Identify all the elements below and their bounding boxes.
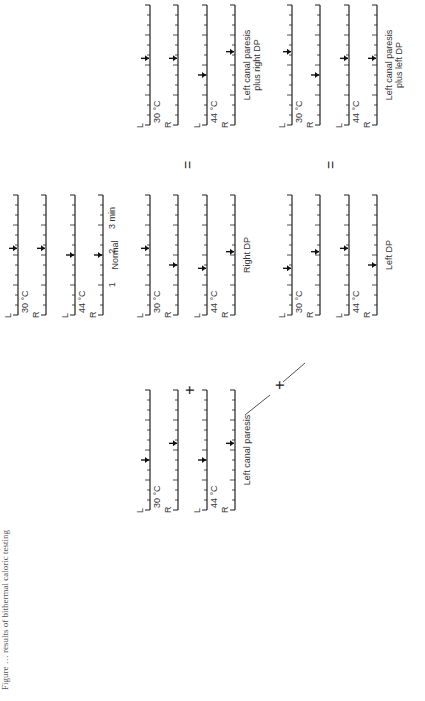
panel-label: Right DP — [242, 237, 252, 273]
caloric-test-diagram: LRLR30 °C44 °CNormal123 minLRLR30 °C44 °… — [0, 0, 425, 701]
time-tick-label: 2 — [107, 249, 117, 254]
svg-text:30 °C: 30 °C — [20, 290, 30, 313]
equals-operator: = — [323, 161, 339, 169]
panel-label: Normal — [110, 240, 120, 269]
row-label: R — [220, 311, 230, 318]
svg-text:plus left DP: plus left DP — [394, 42, 404, 88]
panel-label: Left canal paresis — [242, 29, 252, 100]
svg-text:44 °C: 44 °C — [209, 100, 219, 123]
row-label: L — [277, 123, 287, 128]
row-label: L — [135, 313, 145, 318]
row-label: R — [220, 121, 230, 128]
row-label: R — [163, 506, 173, 513]
row-label: L — [277, 313, 287, 318]
row-label: R — [362, 311, 372, 318]
panel-label: Left canal paresis — [242, 414, 252, 485]
equals-operator: = — [180, 161, 196, 169]
svg-text:44 °C: 44 °C — [209, 290, 219, 313]
svg-text:44 °C: 44 °C — [351, 290, 361, 313]
row-label: L — [334, 123, 344, 128]
svg-text:44 °C: 44 °C — [209, 485, 219, 508]
svg-text:plus right DP: plus right DP — [252, 39, 262, 91]
time-tick-label: 1 — [107, 282, 117, 287]
row-label: L — [3, 313, 13, 318]
row-label: R — [305, 311, 315, 318]
row-label: L — [334, 313, 344, 318]
row-label: R — [163, 121, 173, 128]
svg-text:30 °C: 30 °C — [294, 100, 304, 123]
row-label: R — [220, 506, 230, 513]
svg-text:30 °C: 30 °C — [152, 100, 162, 123]
row-label: L — [192, 123, 202, 128]
plus-operator: + — [271, 380, 288, 389]
svg-text:30 °C: 30 °C — [152, 290, 162, 313]
panel-label: Left canal paresis — [384, 29, 394, 100]
panel-label: Left DP — [384, 240, 394, 270]
row-label: R — [163, 311, 173, 318]
svg-text:30 °C: 30 °C — [294, 290, 304, 313]
row-label: R — [31, 311, 41, 318]
row-label: R — [362, 121, 372, 128]
row-label: R — [88, 311, 98, 318]
row-label: R — [305, 121, 315, 128]
row-label: L — [192, 313, 202, 318]
row-label: L — [135, 508, 145, 513]
figure-caption: Figure … results of bithermal caloric te… — [0, 530, 10, 690]
svg-text:44 °C: 44 °C — [351, 100, 361, 123]
row-label: L — [60, 313, 70, 318]
time-tick-label: 3 min — [107, 207, 117, 229]
plus-operator: + — [181, 385, 198, 394]
svg-text:44 °C: 44 °C — [77, 290, 87, 313]
row-label: L — [192, 508, 202, 513]
svg-text:30 °C: 30 °C — [152, 485, 162, 508]
row-label: L — [135, 123, 145, 128]
